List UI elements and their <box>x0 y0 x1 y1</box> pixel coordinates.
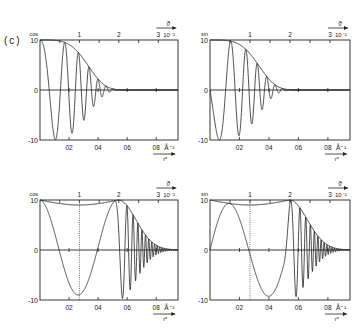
figure-label: (c) <box>4 35 22 46</box>
x-tick-label: 04 <box>265 144 273 151</box>
y-tick-label: 10 <box>200 197 208 204</box>
top-arrow-head <box>172 26 176 30</box>
panel-top-right: 02040608Å⁻¹r*12310⁻²ϑsin100-10 <box>198 20 350 162</box>
x-tick-label: 06 <box>124 304 132 311</box>
y-tick-label: 0 <box>34 247 38 254</box>
x-tick-label: 08 <box>324 304 332 311</box>
panel-bottom-right: 02040608Å⁻¹r*12310⁻²ϑsin100-10 <box>198 180 350 322</box>
envelope-curve <box>40 200 178 250</box>
x-tick-label: 06 <box>124 144 132 151</box>
figure: (c) 02040608Å⁻¹r*12310⁻²ϑcos100-10020406… <box>0 0 360 329</box>
envelope-curve <box>210 40 350 90</box>
top-axis-label: ϑ <box>338 180 342 187</box>
x-axis-label: r* <box>335 156 340 162</box>
y-tick-label: 0 <box>204 87 208 94</box>
x-arrow-head <box>171 312 175 316</box>
top-tick-label: 1 <box>78 31 82 38</box>
x-tick-label: 04 <box>94 144 102 151</box>
y-tick-label: -10 <box>198 297 208 304</box>
top-tick-label: 1 <box>248 191 252 198</box>
top-tick-label: 3 <box>328 191 332 198</box>
top-unit-label: 10⁻² <box>335 192 347 198</box>
top-axis-label: ϑ <box>167 180 171 187</box>
top-tick-label: 3 <box>328 31 332 38</box>
y-tick-label: 10 <box>200 37 208 44</box>
x-arrow-head <box>343 312 347 316</box>
y-tick-label: 0 <box>34 87 38 94</box>
x-unit-label: Å⁻¹ <box>164 303 175 311</box>
y-tick-label: 0 <box>204 247 208 254</box>
x-tick-label: 02 <box>65 304 73 311</box>
top-axis-label: ϑ <box>167 20 171 27</box>
x-tick-label: 04 <box>265 304 273 311</box>
x-tick-label: 04 <box>94 304 102 311</box>
top-axis-label: ϑ <box>338 20 342 27</box>
x-tick-label: 08 <box>324 144 332 151</box>
top-tick-label: 1 <box>78 191 82 198</box>
top-tick-label: 3 <box>156 191 160 198</box>
panel-top-left: 02040608Å⁻¹r*12310⁻²ϑcos100-10 <box>28 20 178 162</box>
x-tick-label: 02 <box>236 144 244 151</box>
top-tick-label: 2 <box>117 191 121 198</box>
x-arrow-head <box>343 152 347 156</box>
x-unit-label: Å⁻¹ <box>164 143 175 151</box>
oscillation-curve <box>210 41 350 140</box>
top-unit-label: 10⁻² <box>335 32 347 38</box>
top-arrow-head <box>344 26 348 30</box>
y-tick-label: -10 <box>198 137 208 144</box>
y-tick-label: 10 <box>30 197 38 204</box>
x-tick-label: 08 <box>153 304 161 311</box>
top-tick-label: 3 <box>156 31 160 38</box>
top-unit-label: 10⁻² <box>163 192 175 198</box>
x-tick-label: 02 <box>65 144 73 151</box>
x-axis-label: r* <box>163 316 168 322</box>
y-tick-label: -10 <box>28 137 38 144</box>
top-arrow-head <box>344 186 348 190</box>
envelope-curve <box>210 200 350 250</box>
x-unit-label: Å⁻¹ <box>336 303 347 311</box>
top-tick-label: 2 <box>117 31 121 38</box>
panel-bottom-left: 02040608Å⁻¹r*12310⁻²ϑcos100-10 <box>28 180 178 322</box>
x-tick-label: 08 <box>153 144 161 151</box>
x-tick-label: 06 <box>295 304 303 311</box>
oscillation-curve <box>40 200 178 299</box>
top-unit-label: 10⁻² <box>163 32 175 38</box>
top-arrow-head <box>172 186 176 190</box>
x-axis-label: r* <box>335 316 340 322</box>
top-tick-label: 2 <box>288 191 292 198</box>
x-tick-label: 06 <box>295 144 303 151</box>
x-arrow-head <box>171 152 175 156</box>
x-tick-label: 02 <box>236 304 244 311</box>
x-unit-label: Å⁻¹ <box>336 143 347 151</box>
y-tick-label: -10 <box>28 297 38 304</box>
oscillation-curve <box>210 200 350 297</box>
y-tick-label: 10 <box>30 37 38 44</box>
x-axis-label: r* <box>163 156 168 162</box>
top-tick-label: 2 <box>288 31 292 38</box>
top-tick-label: 1 <box>248 31 252 38</box>
